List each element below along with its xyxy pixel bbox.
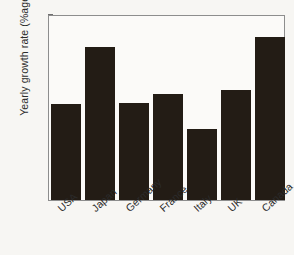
bar-chart-figure: Yearly growth rate (%age) 1.522.533.5 US… [0, 0, 294, 255]
bar [51, 104, 81, 200]
bar [221, 90, 251, 200]
bar [187, 129, 217, 200]
y-axis-title: Yearly growth rate (%age) [18, 0, 30, 134]
plot-area [48, 15, 285, 201]
bar [255, 37, 285, 200]
bar [85, 47, 115, 200]
